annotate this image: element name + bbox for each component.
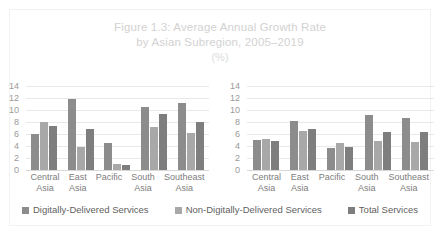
y-axis-tick-label: 6: [14, 130, 19, 139]
bar: [159, 114, 167, 170]
bar: [336, 143, 344, 170]
figure-units-label: (%): [0, 50, 440, 65]
bar: [113, 164, 121, 170]
legend-item[interactable]: Total Services: [348, 205, 418, 215]
bar-group: [402, 86, 428, 170]
y-axis-tick-label: 12: [9, 94, 19, 103]
bar-group: [104, 86, 130, 170]
y-axis-tick-label: 2: [235, 154, 240, 163]
y-axis-left: 14121086420: [0, 86, 22, 170]
bar-group: [141, 86, 167, 170]
bar-group: [327, 86, 353, 170]
bar: [196, 122, 204, 170]
axis-baseline: [247, 170, 434, 171]
bar: [345, 147, 353, 170]
plot-area-left: [26, 86, 209, 170]
bar: [411, 142, 419, 170]
legend-item[interactable]: Non-Digitally-Delivered Services: [175, 205, 322, 215]
bar-group: [31, 86, 57, 170]
bar: [31, 134, 39, 170]
x-axis-category-label: EastAsia: [69, 172, 87, 198]
x-axis-category-label: EastAsia: [291, 172, 309, 198]
x-axis-category-label: CentralAsia: [31, 172, 60, 198]
bar: [271, 141, 279, 170]
bar: [290, 121, 298, 170]
bar-group: [253, 86, 279, 170]
axis-baseline: [26, 170, 209, 171]
bar-group: [178, 86, 204, 170]
x-axis-category-label: SoutheastAsia: [389, 172, 430, 198]
bar: [402, 118, 410, 170]
bar: [86, 129, 94, 170]
bar: [68, 99, 76, 170]
legend-label: Non-Digitally-Delivered Services: [186, 205, 322, 215]
y-axis-tick-label: 14: [9, 82, 19, 91]
y-axis-tick-label: 2: [14, 154, 19, 163]
bar: [299, 131, 307, 170]
bar-group: [68, 86, 94, 170]
x-axis-right: CentralAsiaEastAsiaPacificSouthAsiaSouth…: [247, 172, 434, 198]
bar-groups-right: [247, 86, 434, 170]
y-axis-tick-label: 12: [230, 94, 240, 103]
y-axis-tick-label: 10: [9, 106, 19, 115]
bar-group: [365, 86, 391, 170]
bar: [420, 132, 428, 170]
y-axis-tick-label: 8: [235, 118, 240, 127]
chart-legend: Digitally-Delivered ServicesNon-Digitall…: [0, 205, 440, 215]
bar: [178, 103, 186, 170]
y-axis-tick-label: 8: [14, 118, 19, 127]
bar: [365, 115, 373, 170]
y-axis-tick-label: 0: [235, 166, 240, 175]
figure-title: Figure 1.3: Average Annual Growth Rate b…: [0, 20, 440, 65]
bar: [150, 127, 158, 170]
figure-title-line-1: Figure 1.3: Average Annual Growth Rate: [0, 20, 440, 35]
figure-title-line-2: by Asian Subregion, 2005–2019: [0, 35, 440, 50]
x-axis-left: CentralAsiaEastAsiaPacificSouthAsiaSouth…: [26, 172, 209, 198]
bar: [104, 143, 112, 170]
x-axis-category-label: SouthAsia: [131, 172, 155, 198]
bar: [374, 141, 382, 170]
legend-label: Digitally-Delivered Services: [33, 205, 149, 215]
figure-container: Figure 1.3: Average Annual Growth Rate b…: [0, 0, 440, 235]
bar-group: [290, 86, 316, 170]
y-axis-tick-label: 14: [230, 82, 240, 91]
legend-swatch-icon: [22, 207, 29, 214]
legend-swatch-icon: [348, 207, 355, 214]
bar: [262, 139, 270, 170]
bar: [141, 107, 149, 170]
bar: [308, 129, 316, 170]
legend-label: Total Services: [359, 205, 418, 215]
bar: [49, 126, 57, 170]
bar-groups-left: [26, 86, 209, 170]
bar: [383, 132, 391, 170]
bar: [327, 148, 335, 170]
y-axis-tick-label: 6: [235, 130, 240, 139]
charts-row: 14121086420 CentralAsiaEastAsiaPacificSo…: [0, 82, 440, 200]
bar: [77, 147, 85, 170]
legend-item[interactable]: Digitally-Delivered Services: [22, 205, 149, 215]
bar: [187, 133, 195, 170]
plot-area-right: [247, 86, 434, 170]
y-axis-tick-label: 4: [235, 142, 240, 151]
bar: [40, 122, 48, 170]
x-axis-category-label: CentralAsia: [252, 172, 281, 198]
chart-panel-right: 14121086420 CentralAsiaEastAsiaPacificSo…: [215, 82, 440, 200]
bar: [253, 140, 261, 170]
bar: [122, 165, 130, 170]
chart-panel-left: 14121086420 CentralAsiaEastAsiaPacificSo…: [0, 82, 215, 200]
y-axis-right: 14121086420: [215, 86, 243, 170]
x-axis-category-label: SouthAsia: [355, 172, 379, 198]
y-axis-tick-label: 4: [14, 142, 19, 151]
legend-swatch-icon: [175, 207, 182, 214]
x-axis-category-label: SoutheastAsia: [164, 172, 205, 198]
y-axis-tick-label: 0: [14, 166, 19, 175]
x-axis-category-label: Pacific: [319, 172, 346, 198]
x-axis-category-label: Pacific: [96, 172, 123, 198]
y-axis-tick-label: 10: [230, 106, 240, 115]
